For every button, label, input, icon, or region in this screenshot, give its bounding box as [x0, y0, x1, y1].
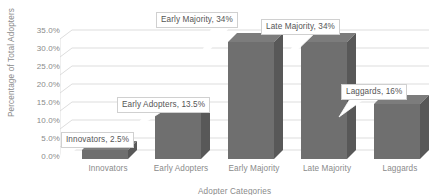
x-tick-label-laggards: Laggards [383, 164, 418, 173]
y-axis-tick-labels: 35.0% 30.0% 25.0% 20.0% 15.0% 10.0% 5.0%… [18, 0, 60, 195]
y-tick-label: 15.0% [37, 98, 60, 107]
y-tick-label: 20.0% [37, 80, 60, 89]
data-label-innovators[interactable]: Innovators, 2.5% [61, 132, 134, 148]
callout-leader-icon [186, 22, 242, 64]
bar-side-face [420, 95, 429, 159]
bar-front-face [374, 104, 420, 159]
data-label-early-majority[interactable]: Early Majority, 34% [156, 12, 238, 28]
x-axis-title: Adopter Categories [0, 187, 429, 195]
x-tick-label-late-majority: Late Majority [303, 164, 351, 173]
bar-laggards[interactable] [374, 104, 420, 159]
data-label-laggards[interactable]: Laggards, 16% [341, 84, 407, 100]
data-label-text: Early Majority, 34% [156, 12, 238, 28]
y-tick-label: 10.0% [37, 116, 60, 125]
x-tick-label-early-adopters: Early Adopters [154, 164, 209, 173]
y-tick-label: 25.0% [37, 62, 60, 71]
y-axis-title: Percentage of Total Adopters [7, 0, 16, 128]
y-tick-label: 30.0% [37, 44, 60, 53]
chart-3d-column: Percentage of Total Adopters 35.0% 30.0%… [0, 0, 429, 195]
data-label-text: Late Majority, 34% [261, 19, 340, 35]
data-label-early-adopters[interactable]: Early Adopters, 13.5% [117, 97, 210, 113]
data-label-text: Laggards, 16% [341, 84, 407, 100]
data-label-text: Innovators, 2.5% [61, 132, 134, 148]
x-axis-tick-labels: Innovators Early Adopters Early Majority… [60, 164, 429, 178]
data-label-late-majority[interactable]: Late Majority, 34% [261, 19, 340, 35]
data-label-text: Early Adopters, 13.5% [117, 97, 210, 113]
x-tick-label-early-majority: Early Majority [229, 164, 280, 173]
x-tick-label-innovators: Innovators [88, 164, 127, 173]
y-tick-label: 35.0% [37, 26, 60, 35]
